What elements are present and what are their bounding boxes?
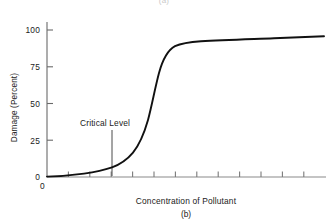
damage-curve [47, 36, 324, 176]
figure-panel-b: (a) Damage (Percent) 100 75 50 25 0 0 Cr… [0, 0, 328, 223]
chart-svg [0, 0, 328, 223]
y-tick-marks [47, 30, 53, 140]
x-tick-marks [68, 172, 303, 178]
